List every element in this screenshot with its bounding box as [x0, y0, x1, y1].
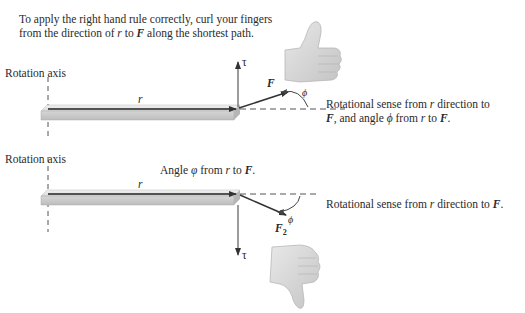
top-diagram: [41, 22, 345, 140]
tau-label-top: τ: [242, 55, 247, 69]
r-label-top: r: [138, 92, 142, 106]
phi-label-top: ϕ: [302, 86, 307, 100]
phi-label-bottom: ϕ: [288, 213, 293, 227]
thumbs-up-hand-icon: [285, 22, 341, 82]
thumbs-down-hand-icon: [270, 245, 320, 308]
F-vector-arrow: [239, 92, 288, 108]
F2-label: F2: [275, 221, 287, 240]
F-label-top: F: [267, 76, 275, 90]
rotation-axis-label-top: Rotation axis: [5, 66, 66, 80]
caption-top-line-2: F, and angle ϕ from r to F.: [326, 111, 490, 125]
right-hand-rule-diagram: [0, 0, 525, 313]
rod-front-face-bottom: [41, 196, 234, 205]
caption-top: Rotational sense from r direction to F, …: [326, 97, 490, 125]
caption-bottom: Rotational sense from r direction to F.: [326, 197, 503, 211]
r-label-bottom: r: [138, 177, 142, 191]
tau-label-bottom: τ: [242, 248, 247, 262]
caption-top-line-1: Rotational sense from r direction to: [326, 97, 490, 111]
rotation-axis-label-bottom: Rotation axis: [5, 152, 66, 166]
rod-front-face: [41, 111, 234, 120]
angle-caption-bottom: Angle φ from r to F.: [160, 163, 255, 177]
